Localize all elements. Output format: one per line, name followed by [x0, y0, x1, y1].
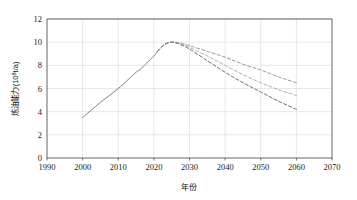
x-axis-title: 年份 — [181, 182, 197, 192]
y-tick-label: 6 — [38, 84, 42, 94]
x-tick-label: 2040 — [217, 162, 234, 172]
x-tick-label: 2060 — [288, 162, 305, 172]
y-tick-label: 10 — [34, 37, 43, 47]
y-tick-label: 2 — [38, 130, 42, 140]
x-tick-label: 2050 — [252, 162, 269, 172]
refining-capacity-chart: 024681012 199020002010202020302040205020… — [0, 0, 357, 200]
y-axis-title-tail: t/a) — [11, 61, 20, 72]
y-axis-title-main: 炼油能力/(10 — [10, 75, 20, 116]
x-tick-label: 2070 — [324, 162, 341, 172]
y-tick-label: 12 — [34, 14, 43, 24]
x-tick-label: 2020 — [145, 162, 162, 172]
y-tick-label: 8 — [38, 60, 42, 70]
x-axis-tick-labels: 199020002010202020302040205020602070 — [39, 162, 341, 172]
x-tick-label: 2000 — [74, 162, 91, 172]
x-tick-label: 1990 — [39, 162, 56, 172]
x-tick-label: 2010 — [110, 162, 127, 172]
y-axis-title: 炼油能力/(108t/a) — [10, 61, 20, 116]
chart-canvas: 024681012 199020002010202020302040205020… — [0, 0, 357, 200]
svg-text:炼油能力/(108t/a): 炼油能力/(108t/a) — [10, 61, 20, 116]
x-tick-label: 2030 — [181, 162, 198, 172]
